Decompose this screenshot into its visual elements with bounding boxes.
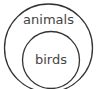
animals-label: animals: [23, 12, 74, 27]
birds-label: birds: [35, 52, 67, 67]
euler-diagram: animals birds: [0, 0, 97, 89]
